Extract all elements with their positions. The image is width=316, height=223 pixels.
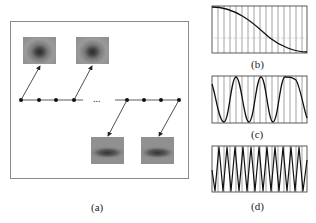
plot-d: [0, 0, 316, 223]
panel-a-label: (a): [91, 201, 103, 213]
panel-d-label: (d): [251, 200, 264, 212]
